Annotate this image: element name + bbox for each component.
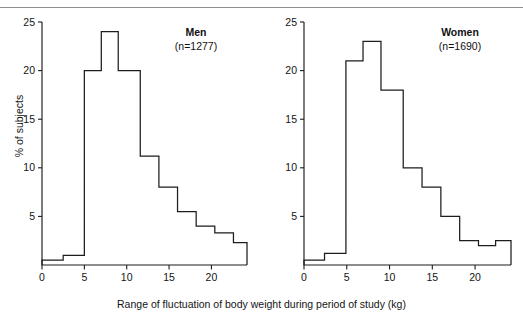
women-group-count: (n=1690) xyxy=(439,40,481,52)
x-tick-label: 0 xyxy=(301,271,307,283)
y-axis-title: % of subjects xyxy=(13,80,25,172)
y-tick-label: 10 xyxy=(23,161,35,173)
histogram-men-svg: 51015202505101520 Men (n=1277) xyxy=(0,14,262,292)
y-tick-label: 5 xyxy=(29,210,35,222)
chart-panel-women: 51015202505101520 Women (n=1690) xyxy=(258,14,523,292)
women-axis-ticks xyxy=(300,22,475,270)
women-group-title: Women xyxy=(441,26,479,38)
men-tick-labels: 51015202505101520 xyxy=(23,16,217,283)
women-histogram-outline xyxy=(304,41,511,265)
men-axis-ticks xyxy=(38,22,211,270)
y-tick-label: 5 xyxy=(291,210,297,222)
chart-panel-men: 51015202505101520 Men (n=1277) xyxy=(0,14,262,292)
y-tick-label: 20 xyxy=(23,64,35,76)
x-tick-label: 20 xyxy=(206,271,218,283)
y-tick-label: 25 xyxy=(285,16,297,28)
y-tick-label: 10 xyxy=(285,161,297,173)
x-tick-label: 15 xyxy=(163,271,175,283)
panels-container: 51015202505101520 Men (n=1277) 510152025… xyxy=(0,14,523,292)
histogram-women-svg: 51015202505101520 Women (n=1690) xyxy=(258,14,523,292)
x-tick-label: 0 xyxy=(39,271,45,283)
men-histogram-outline xyxy=(42,32,247,265)
x-tick-label: 10 xyxy=(384,271,396,283)
x-tick-label: 10 xyxy=(121,271,133,283)
x-tick-label: 5 xyxy=(344,271,350,283)
y-tick-label: 20 xyxy=(285,64,297,76)
x-tick-label: 5 xyxy=(81,271,87,283)
figure-root: 51015202505101520 Men (n=1277) 510152025… xyxy=(0,0,523,330)
men-axis-lines xyxy=(42,22,247,265)
women-axis-lines xyxy=(304,22,511,265)
top-divider-rule xyxy=(0,7,523,8)
x-tick-label: 15 xyxy=(426,271,438,283)
y-tick-label: 25 xyxy=(23,16,35,28)
men-group-count: (n=1277) xyxy=(175,40,217,52)
women-tick-labels: 51015202505101520 xyxy=(285,16,481,283)
x-tick-label: 20 xyxy=(469,271,481,283)
y-tick-label: 15 xyxy=(23,113,35,125)
men-group-title: Men xyxy=(186,26,207,38)
x-axis-title: Range of fluctuation of body weight duri… xyxy=(0,298,523,310)
y-tick-label: 15 xyxy=(285,113,297,125)
